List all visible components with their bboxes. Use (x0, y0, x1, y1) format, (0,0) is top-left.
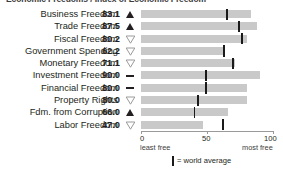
score-bar (141, 71, 260, 79)
chart-row: Labor Freedom47.0 (0, 119, 283, 131)
row-plot (141, 94, 273, 106)
axis-most-free-label: most free (242, 143, 273, 152)
score-bar (141, 35, 247, 43)
chart-row: Monetary Freedom71.1 (0, 57, 283, 69)
score-bar (141, 84, 247, 92)
chart-row: Investment Freedom90.0 (0, 69, 283, 81)
score-bar (141, 108, 228, 116)
economic-freedoms-chart: Economic Freedoms / Index of Economic Fr… (0, 0, 283, 169)
row-score-value: 62.2 (99, 45, 120, 57)
chart-row: Fiscal Freedom80.2 (0, 33, 283, 45)
axis-tick-label: 50 (202, 134, 210, 143)
world-average-marker (238, 21, 240, 32)
trend-flat-icon (123, 82, 137, 94)
trend-down-icon (123, 33, 137, 45)
row-plot (141, 20, 273, 32)
row-score-value: 87.5 (99, 20, 120, 32)
score-bar (141, 10, 251, 18)
axis-least-free-label: least free (140, 143, 170, 152)
row-score-value: 80.0 (99, 94, 120, 106)
chart-row: Government Spending62.2 (0, 45, 283, 57)
chart-title-partial: Economic Freedoms / Index of Economic Fr… (6, 0, 236, 2)
row-score-value: 80.2 (99, 33, 120, 45)
row-plot (141, 33, 273, 45)
axis-tick-label: 0 (140, 134, 144, 143)
row-score-value: 83.1 (99, 8, 120, 20)
chart-rows: Business Freedom83.1Trade Freedom87.5Fis… (0, 8, 283, 131)
score-bar (141, 96, 247, 104)
chart-row: Fdm. from Corruption66.0 (0, 106, 283, 118)
trend-up-icon (123, 106, 137, 118)
row-score-value: 90.0 (99, 69, 120, 81)
world-average-marker (205, 70, 207, 81)
world-average-marker (205, 82, 207, 93)
world-average-marker (232, 58, 234, 69)
row-score-value: 80.0 (99, 82, 120, 94)
trend-down-icon (123, 94, 137, 106)
trend-flat-icon (123, 69, 137, 81)
world-average-marker (226, 9, 228, 20)
row-plot (141, 45, 273, 57)
row-plot (141, 57, 273, 69)
chart-row: Financial Freedom80.0 (0, 82, 283, 94)
chart-row: Property Rights80.0 (0, 94, 283, 106)
row-score-value: 47.0 (99, 119, 120, 131)
row-plot (141, 8, 273, 20)
chart-row: Business Freedom83.1 (0, 8, 283, 20)
trend-down-icon (123, 45, 137, 57)
row-plot (141, 106, 273, 118)
row-score-value: 66.0 (99, 106, 120, 118)
trend-up-icon (123, 8, 137, 20)
trend-down-icon (123, 57, 137, 69)
trend-up-icon (123, 20, 137, 32)
row-plot (141, 69, 273, 81)
trend-down-icon (123, 119, 137, 131)
axis-tick-label: 100 (264, 134, 277, 143)
world-average-marker (197, 95, 199, 106)
score-bar (141, 47, 223, 55)
score-bar (141, 59, 235, 67)
world-average-marker-icon (172, 156, 174, 166)
row-score-value: 71.1 (99, 57, 120, 69)
legend: = world average (172, 151, 231, 163)
world-average-marker (222, 119, 224, 130)
row-plot (141, 82, 273, 94)
world-average-marker (223, 45, 225, 56)
chart-row: Trade Freedom87.5 (0, 20, 283, 32)
world-average-marker (241, 33, 243, 44)
row-plot (141, 119, 273, 131)
world-average-marker (194, 107, 196, 118)
score-bar (141, 121, 203, 129)
legend-label: = world average (177, 156, 231, 166)
